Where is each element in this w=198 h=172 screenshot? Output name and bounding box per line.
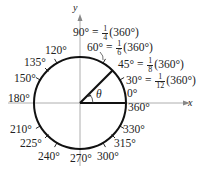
label-135: 135° [24,57,46,69]
label-270: 270° [70,153,92,165]
label-360: 360° [128,102,150,114]
label-150: 150° [14,73,36,85]
label-225: 225° [20,138,42,150]
theta-label: θ [96,89,102,101]
y-arrow-icon [78,14,83,21]
label-315: 315° [114,138,136,150]
label-330: 330° [123,124,145,136]
y-axis-label: y [73,3,77,13]
label-300: 300° [97,151,119,163]
label-210: 210° [10,124,32,136]
label-120: 120° [45,45,67,57]
label-0: 0° [127,88,137,100]
x-axis-label: x [188,98,192,108]
label-60-fraction: 60° = 16(360°) [87,40,153,57]
label-240: 240° [38,151,60,163]
label-45-fraction: 45° = 18(360°) [118,57,184,74]
label-180: 180° [8,93,30,105]
